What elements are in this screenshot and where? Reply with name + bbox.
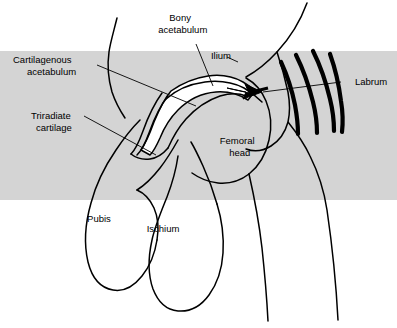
diagram-canvas: Bony acetabulum Ilium Cartilagenous acet…: [0, 0, 397, 328]
label-ischium: Ischium: [147, 223, 180, 234]
label-triradiate-cartilage: Triradiate cartilage: [31, 110, 95, 133]
label-pubis: Pubis: [87, 213, 111, 224]
label-ilium: Ilium: [211, 50, 231, 61]
hip-anatomy-figure: Bony acetabulum Ilium Cartilagenous acet…: [0, 0, 397, 328]
label-labrum: Labrum: [355, 76, 387, 87]
